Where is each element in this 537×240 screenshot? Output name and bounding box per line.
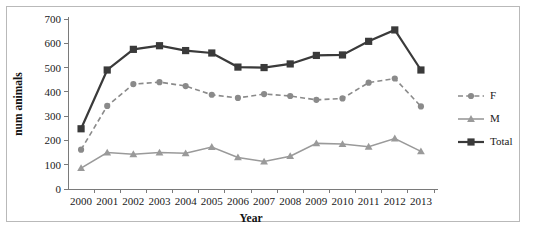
data-point-f-2006 [235, 95, 241, 101]
data-point-f-2007 [261, 91, 267, 97]
data-point-total-2007 [260, 64, 267, 71]
y-axis-tick-label: 300 [45, 110, 62, 122]
x-axis-tick-label: 2008 [279, 195, 302, 207]
data-point-f-2010 [339, 95, 345, 101]
data-point-total-2005 [208, 49, 215, 56]
data-point-f-2005 [209, 92, 215, 98]
data-point-f-2011 [366, 80, 372, 86]
legend-label-m: M [490, 112, 500, 124]
y-axis-tick-label: 100 [45, 159, 62, 171]
x-axis-tick-label: 2000 [70, 195, 93, 207]
data-point-total-2003 [156, 42, 163, 49]
data-point-f-2001 [104, 103, 110, 109]
data-point-f-2000 [78, 147, 84, 153]
x-axis-tick-label: 2013 [410, 195, 433, 207]
data-point-total-2013 [417, 66, 424, 73]
series-line-f [81, 79, 421, 150]
y-axis-tick-label: 0 [56, 183, 62, 195]
x-axis-title: Year [240, 212, 263, 224]
data-point-total-2000 [77, 125, 84, 132]
x-axis-tick-label: 2010 [332, 195, 355, 207]
data-point-total-2006 [234, 63, 241, 70]
legend-label-total: Total [490, 135, 512, 147]
data-point-m-2005 [208, 143, 216, 150]
y-axis-tick-label: 500 [45, 62, 62, 74]
data-point-total-2010 [339, 51, 346, 58]
data-point-total-2002 [130, 46, 137, 53]
y-axis-title: num animals [12, 72, 24, 136]
data-point-f-2004 [183, 83, 189, 89]
y-axis-tick-label: 700 [45, 13, 62, 25]
data-point-f-2002 [130, 81, 136, 87]
x-axis-tick-label: 2001 [96, 195, 118, 207]
x-axis-tick-label: 2012 [384, 195, 406, 207]
data-point-total-2012 [391, 26, 398, 33]
data-point-m-2000 [77, 164, 85, 171]
x-axis-tick-label: 2007 [253, 195, 276, 207]
line-chart: 0100200300400500600700200020012002200320… [0, 0, 537, 240]
data-point-f-2003 [156, 79, 162, 85]
data-point-m-2012 [391, 135, 399, 142]
legend-marker-f [468, 93, 474, 99]
x-axis-tick-label: 2006 [227, 195, 250, 207]
x-axis-tick-label: 2009 [305, 195, 328, 207]
legend-label-f: F [490, 89, 496, 101]
x-axis-tick-label: 2005 [201, 195, 224, 207]
x-axis-tick-label: 2011 [358, 195, 380, 207]
data-point-f-2009 [313, 97, 319, 103]
legend-marker-total [467, 138, 474, 145]
y-axis-tick-label: 400 [45, 86, 62, 98]
y-axis-tick-label: 600 [45, 37, 62, 49]
data-point-total-2004 [182, 47, 189, 54]
y-axis-tick-label: 200 [45, 134, 62, 146]
data-point-f-2008 [287, 93, 293, 99]
chart-figure: 0100200300400500600700200020012002200320… [0, 0, 537, 240]
data-point-f-2012 [392, 75, 398, 81]
data-point-total-2008 [287, 60, 294, 67]
data-point-total-2011 [365, 38, 372, 45]
x-axis-tick-label: 2003 [149, 195, 172, 207]
x-axis-tick-label: 2004 [175, 195, 198, 207]
data-point-f-2013 [418, 103, 424, 109]
x-axis-tick-label: 2002 [122, 195, 144, 207]
data-point-total-2001 [104, 66, 111, 73]
data-point-total-2009 [313, 52, 320, 59]
